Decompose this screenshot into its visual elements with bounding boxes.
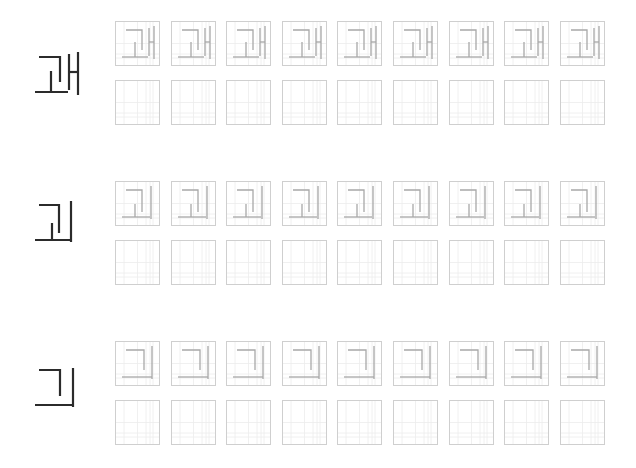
practice-box <box>337 80 382 125</box>
character-goe-icon <box>25 195 85 245</box>
guide-grid-icon <box>450 241 493 284</box>
guide-grid-icon <box>227 81 270 124</box>
trace-row <box>115 181 610 227</box>
practice-box <box>504 80 549 125</box>
guide-grid-icon <box>450 401 493 444</box>
guide-grid-icon <box>227 401 270 444</box>
character-gwae-icon <box>25 47 85 97</box>
trace-box <box>115 341 160 386</box>
practice-box <box>226 240 271 285</box>
guide-grid-icon <box>561 241 604 284</box>
trace-box <box>226 181 271 226</box>
trace-character-icon <box>116 342 159 385</box>
trace-box <box>171 21 216 66</box>
guide-grid-icon <box>283 241 326 284</box>
practice-box <box>282 240 327 285</box>
trace-box <box>449 181 494 226</box>
practice-box <box>171 240 216 285</box>
practice-box <box>337 240 382 285</box>
practice-box <box>504 400 549 445</box>
trace-character-icon <box>172 342 215 385</box>
practice-box <box>560 400 605 445</box>
guide-grid-icon <box>338 241 381 284</box>
trace-box <box>449 341 494 386</box>
trace-box <box>115 181 160 226</box>
trace-box <box>337 181 382 226</box>
practice-box <box>171 400 216 445</box>
practice-box <box>115 400 160 445</box>
practice-box <box>226 400 271 445</box>
guide-grid-icon <box>116 401 159 444</box>
trace-character-icon <box>116 182 159 225</box>
trace-character-icon <box>283 22 326 65</box>
trace-box <box>282 21 327 66</box>
trace-box <box>560 341 605 386</box>
guide-grid-icon <box>505 401 548 444</box>
practice-row <box>115 80 610 126</box>
trace-box <box>115 21 160 66</box>
practice-box <box>560 240 605 285</box>
model-character-gwae: 괘 <box>25 47 85 97</box>
practice-box <box>393 80 438 125</box>
trace-box <box>449 21 494 66</box>
trace-character-icon <box>116 22 159 65</box>
practice-box <box>449 80 494 125</box>
trace-character-icon <box>450 22 493 65</box>
practice-box <box>115 240 160 285</box>
trace-box <box>560 21 605 66</box>
trace-character-icon <box>450 342 493 385</box>
guide-grid-icon <box>172 241 215 284</box>
trace-character-icon <box>561 22 604 65</box>
trace-character-icon <box>172 22 215 65</box>
trace-box <box>226 21 271 66</box>
trace-box <box>560 181 605 226</box>
guide-grid-icon <box>338 81 381 124</box>
guide-grid-icon <box>283 81 326 124</box>
trace-row <box>115 341 610 387</box>
trace-character-icon <box>505 22 548 65</box>
practice-box <box>226 80 271 125</box>
practice-box <box>171 80 216 125</box>
trace-character-icon <box>172 182 215 225</box>
guide-grid-icon <box>116 81 159 124</box>
trace-character-icon <box>394 182 437 225</box>
trace-character-icon <box>283 182 326 225</box>
practice-row <box>115 400 610 446</box>
practice-box <box>393 240 438 285</box>
practice-box <box>449 240 494 285</box>
trace-character-icon <box>227 342 270 385</box>
trace-box <box>171 341 216 386</box>
trace-row <box>115 21 610 67</box>
trace-character-icon <box>450 182 493 225</box>
model-character-goe: 괴 <box>25 195 85 245</box>
guide-grid-icon <box>172 401 215 444</box>
trace-character-icon <box>394 22 437 65</box>
trace-box <box>393 181 438 226</box>
trace-box <box>282 341 327 386</box>
practice-box <box>560 80 605 125</box>
trace-box <box>337 21 382 66</box>
trace-character-icon <box>394 342 437 385</box>
trace-box <box>504 181 549 226</box>
trace-character-icon <box>227 22 270 65</box>
guide-grid-icon <box>561 401 604 444</box>
trace-box <box>171 181 216 226</box>
practice-box <box>337 400 382 445</box>
guide-grid-icon <box>394 401 437 444</box>
practice-box <box>282 400 327 445</box>
trace-character-icon <box>338 182 381 225</box>
trace-box <box>337 341 382 386</box>
character-gui-icon <box>25 360 85 410</box>
practice-box <box>504 240 549 285</box>
trace-character-icon <box>505 182 548 225</box>
guide-grid-icon <box>450 81 493 124</box>
trace-character-icon <box>561 342 604 385</box>
guide-grid-icon <box>172 81 215 124</box>
model-character-gui: 긔 <box>25 360 85 410</box>
trace-character-icon <box>283 342 326 385</box>
guide-grid-icon <box>505 81 548 124</box>
practice-box <box>115 80 160 125</box>
guide-grid-icon <box>394 81 437 124</box>
trace-box <box>393 341 438 386</box>
guide-grid-icon <box>227 241 270 284</box>
